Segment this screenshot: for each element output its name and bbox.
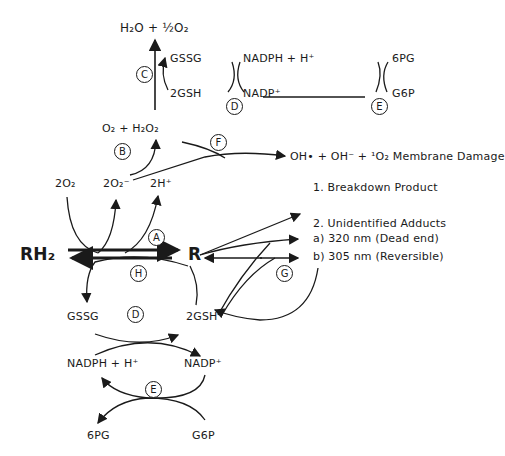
breakdown-product-label: 1. Breakdown Product (313, 182, 438, 194)
enzyme-d-bottom-marker: D (127, 306, 144, 323)
6pg-bottom-label: 6PG (87, 430, 110, 442)
gssg-top-label: GSSG (170, 53, 202, 65)
rh2-label: RH₂ (20, 245, 55, 263)
adduct-b-label: b) 305 nm (Reversible) (313, 251, 444, 263)
gsh-top-label: 2GSH (170, 88, 202, 100)
nadp-bottom-label: NADP⁺ (184, 358, 222, 370)
r-radical-label: R (188, 245, 201, 263)
reaction-g-marker: G (276, 265, 293, 282)
enzyme-e-bottom-marker: E (145, 381, 162, 398)
unidentified-adducts-label: 2. Unidentified Adducts (313, 218, 446, 230)
enzyme-b-marker: B (114, 143, 131, 160)
nadph-top-label: NADPH + H⁺ (243, 53, 314, 65)
water-oxygen-product: H₂O + ½O₂ (120, 22, 189, 34)
enzyme-d-top-marker: D (226, 98, 243, 115)
superoxide-radical-label: 2O₂⁻ (103, 178, 130, 190)
6pg-top-label: 6PG (392, 53, 415, 65)
g6p-bottom-label: G6P (192, 430, 215, 442)
two-o2-label: 2O₂ (55, 178, 76, 190)
enzyme-f-marker: F (210, 134, 227, 151)
nadp-top-label: NADP⁺ (243, 88, 281, 100)
two-h-label: 2H⁺ (150, 178, 172, 190)
reaction-a-marker: A (148, 229, 165, 246)
g6p-top-label: G6P (392, 88, 415, 100)
gsh-bottom-label: 2GSH (186, 311, 218, 323)
enzyme-c-marker: C (136, 66, 153, 83)
membrane-damage-label: OH• + OH⁻ + ¹O₂ Membrane Damage (290, 151, 505, 163)
enzyme-e-top-marker: E (371, 98, 388, 115)
adduct-a-label: a) 320 nm (Dead end) (313, 233, 439, 245)
reaction-h-marker: H (130, 265, 147, 282)
o2-h2o2-label: O₂ + H₂O₂ (102, 123, 159, 135)
gssg-bottom-label: GSSG (67, 311, 99, 323)
nadph-bottom-label: NADPH + H⁺ (67, 358, 138, 370)
